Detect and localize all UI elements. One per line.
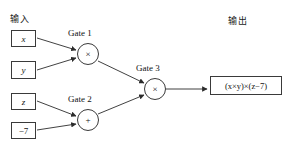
output-expression-box[interactable]: (x×y)×(z−7) bbox=[210, 76, 282, 95]
gate-2-label: Gate 2 bbox=[68, 94, 92, 104]
input-box-z[interactable]: z bbox=[11, 93, 36, 110]
gate-1-multiply[interactable]: × bbox=[77, 43, 99, 65]
computational-graph-diagram: 输入 输出 x y z −7 Gate 1 × Gate 2 + Gate 3 … bbox=[0, 0, 288, 153]
gate-3-multiply[interactable]: × bbox=[144, 78, 166, 100]
wire-y-to-gate1 bbox=[37, 58, 76, 70]
input-section-label: 输入 bbox=[10, 12, 29, 25]
gate-2-add[interactable]: + bbox=[77, 109, 99, 131]
wire-gate2-to-gate3 bbox=[98, 95, 144, 114]
gate-1-label: Gate 1 bbox=[68, 28, 92, 38]
wire-c-to-gate2 bbox=[37, 124, 76, 130]
input-box-y[interactable]: y bbox=[11, 61, 36, 79]
output-section-label: 输出 bbox=[228, 14, 247, 27]
input-box-x[interactable]: x bbox=[11, 30, 36, 47]
gate-3-label: Gate 3 bbox=[136, 63, 160, 73]
input-box-constant[interactable]: −7 bbox=[11, 122, 36, 139]
wire-x-to-gate1 bbox=[37, 38, 76, 50]
